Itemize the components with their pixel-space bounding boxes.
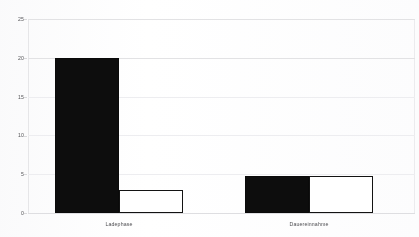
y-tick-mark-5	[24, 174, 27, 175]
y-axis-tick-labels: 25 20 15 10 5 0	[0, 19, 24, 213]
gridline-25	[28, 19, 415, 20]
bar-dauereinnahme-series2	[309, 176, 373, 213]
y-tick-label-10: 10	[2, 132, 24, 138]
x-axis-baseline	[28, 213, 415, 214]
y-tick-label-15: 15	[2, 94, 24, 100]
y-tick-mark-10	[24, 136, 27, 137]
y-tick-mark-0	[24, 213, 27, 214]
y-tick-label-25: 25	[2, 16, 24, 22]
x-category-label-ladephase: Ladephase	[105, 221, 132, 227]
bar-chart-screenshot: 25 20 15 10 5 0 Ladephase Dauereinnahme	[0, 0, 419, 237]
plot-area	[28, 19, 415, 213]
y-tick-mark-25	[24, 19, 27, 20]
bar-ladephase-series1	[55, 58, 119, 213]
y-tick-label-20: 20	[2, 55, 24, 61]
x-category-label-dauereinnahme: Dauereinnahme	[290, 221, 329, 227]
bar-ladephase-series2	[119, 190, 183, 213]
y-tick-mark-20	[24, 58, 27, 59]
y-tick-label-5: 5	[2, 171, 24, 177]
bar-dauereinnahme-series1	[245, 176, 309, 213]
y-tick-label-0: 0	[2, 210, 24, 216]
y-tick-mark-15	[24, 97, 27, 98]
